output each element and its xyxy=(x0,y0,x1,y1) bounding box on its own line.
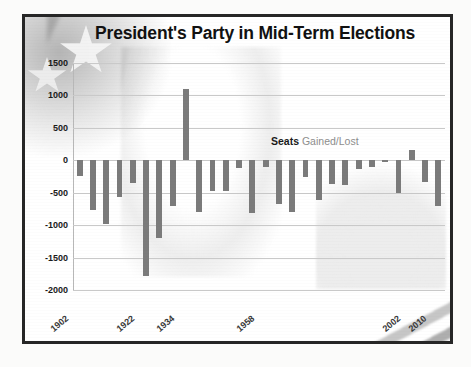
bar xyxy=(409,150,415,160)
bar xyxy=(236,160,242,168)
bar xyxy=(276,160,282,203)
bar xyxy=(316,160,322,200)
bar xyxy=(156,160,162,238)
bar xyxy=(223,160,229,190)
bar xyxy=(130,160,136,183)
bar xyxy=(210,160,216,191)
bar xyxy=(183,89,189,160)
x-axis-tick-label: 2002 xyxy=(380,313,402,334)
x-axis-tick-label: 1922 xyxy=(115,313,137,334)
legend: Seats Gained/Lost xyxy=(271,135,359,147)
y-axis-tick-label: -2000 xyxy=(45,285,68,295)
y-axis-tick-label: 0 xyxy=(63,155,68,165)
gridline xyxy=(73,193,445,194)
plot-area: 150010005000-500-1000-1500-2000190219221… xyxy=(73,63,445,290)
chart-frame: President's Party in Mid-Term Elections … xyxy=(22,14,453,344)
gridline xyxy=(73,160,445,161)
bar xyxy=(289,160,295,211)
gridline xyxy=(73,63,445,64)
bar xyxy=(196,160,202,211)
bar xyxy=(90,160,96,209)
y-axis-tick-label: -500 xyxy=(50,188,68,198)
bar xyxy=(77,160,83,176)
legend-label-bold: Seats xyxy=(271,135,299,147)
bar xyxy=(143,160,149,276)
bar xyxy=(263,160,269,166)
x-axis-tick-label: 1958 xyxy=(234,313,256,334)
bar xyxy=(422,160,428,182)
bar xyxy=(342,160,348,185)
y-axis-tick-label: -1000 xyxy=(45,220,68,230)
bar xyxy=(103,160,109,224)
bar xyxy=(396,160,402,192)
gridline xyxy=(73,95,445,96)
chart-title: President's Party in Mid-Term Elections xyxy=(69,23,441,44)
gridline xyxy=(73,258,445,259)
bar xyxy=(356,160,362,169)
x-axis-tick-label: 1902 xyxy=(48,313,70,334)
x-axis-tick-label: 1934 xyxy=(155,313,177,334)
x-axis-tick-label: 2010 xyxy=(407,313,429,334)
y-axis-tick-label: 1500 xyxy=(48,58,68,68)
bar xyxy=(435,160,441,205)
y-axis-tick-label: 500 xyxy=(53,123,68,133)
bar xyxy=(249,160,255,213)
y-axis-tick-label: -1500 xyxy=(45,253,68,263)
gridline xyxy=(73,128,445,129)
bar xyxy=(170,160,176,205)
bar xyxy=(369,160,375,167)
bar xyxy=(117,160,123,197)
legend-label-light: Gained/Lost xyxy=(302,135,359,147)
y-axis-line xyxy=(73,63,74,290)
chart-page: President's Party in Mid-Term Elections … xyxy=(0,0,471,367)
gridline xyxy=(73,290,445,291)
bar xyxy=(382,160,388,162)
bar xyxy=(329,160,335,184)
y-axis-tick-label: 1000 xyxy=(48,90,68,100)
bar xyxy=(303,160,309,177)
gridline xyxy=(73,225,445,226)
